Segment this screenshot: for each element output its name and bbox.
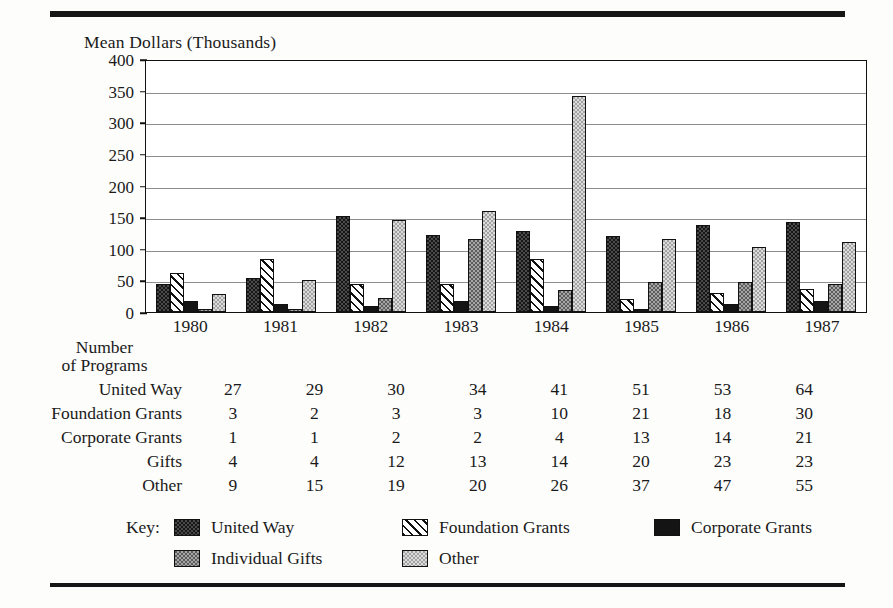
bar-group-1980: [146, 61, 236, 312]
bar-corporate-grants-1983[interactable]: [454, 301, 468, 312]
table-header-spacer-1986: [682, 336, 764, 377]
bar-corporate-grants-1986[interactable]: [724, 304, 738, 312]
bar-united-way-1984[interactable]: [516, 231, 530, 312]
table-row-label-gifts: Gifts: [27, 449, 192, 473]
table-cell-foundation-grants-1985: 21: [600, 401, 682, 425]
table-cell-gifts-1980: 4: [192, 449, 274, 473]
table-header-spacer-1987: [763, 336, 845, 377]
table-row-label-corporate-grants: Corporate Grants: [27, 425, 192, 449]
bar-foundation-grants-1981[interactable]: [260, 259, 274, 312]
table-header-line1: Number: [27, 338, 182, 357]
table-cell-other-1986: 47: [682, 473, 764, 497]
bar-corporate-grants-1981[interactable]: [274, 304, 288, 312]
legend-item-foundation-grants[interactable]: Foundation Grants: [402, 517, 654, 538]
bar-foundation-grants-1984[interactable]: [530, 259, 544, 312]
table-cell-corporate-grants-1982: 2: [355, 425, 437, 449]
bar-united-way-1986[interactable]: [696, 225, 710, 312]
bar-other-1980[interactable]: [212, 294, 226, 312]
table-cell-other-1983: 20: [437, 473, 519, 497]
y-tick-label-350: 350: [109, 83, 135, 100]
table-header-line2: of Programs: [27, 356, 182, 375]
bar-individual-gifts-1983[interactable]: [468, 239, 482, 312]
table-cell-united-way-1980: 27: [192, 377, 274, 401]
bar-corporate-grants-1987[interactable]: [814, 301, 828, 312]
bar-foundation-grants-1986[interactable]: [710, 293, 724, 312]
table-row: Other915192026374755: [27, 473, 845, 497]
legend-item-other[interactable]: Other: [402, 548, 654, 569]
table-cell-other-1980: 9: [192, 473, 274, 497]
legend-item-corporate-grants[interactable]: Corporate Grants: [654, 517, 884, 538]
legend-item-individual-gifts[interactable]: Individual Gifts: [174, 548, 402, 569]
table-cell-corporate-grants-1984: 4: [519, 425, 601, 449]
bar-corporate-grants-1984[interactable]: [544, 306, 558, 312]
bar-individual-gifts-1986[interactable]: [738, 282, 752, 312]
legend-item-united-way[interactable]: United Way: [174, 517, 402, 538]
x-axis-label-1981: 1981: [235, 316, 325, 337]
table-header-spacer-1982: [355, 336, 437, 377]
bar-corporate-grants-1980[interactable]: [184, 301, 198, 312]
y-tick-label-50: 50: [117, 273, 134, 290]
bar-other-1984[interactable]: [572, 96, 586, 312]
bar-corporate-grants-1982[interactable]: [364, 306, 378, 312]
table-cell-foundation-grants-1986: 18: [682, 401, 764, 425]
table-header-spacer-1983: [437, 336, 519, 377]
table-cell-foundation-grants-1983: 3: [437, 401, 519, 425]
x-axis-label-1985: 1985: [596, 316, 686, 337]
table-row: Foundation Grants323310211830: [27, 401, 845, 425]
table-header-spacer-1980: [192, 336, 274, 377]
y-tick-label-250: 250: [109, 146, 135, 163]
bar-corporate-grants-1985[interactable]: [634, 309, 648, 312]
bar-individual-gifts-1982[interactable]: [378, 298, 392, 312]
bottom-rule: [50, 583, 845, 587]
bar-group-1987: [776, 61, 866, 312]
bar-other-1983[interactable]: [482, 211, 496, 312]
table-row: Corporate Grants11224131421: [27, 425, 845, 449]
x-axis-label-1980: 1980: [145, 316, 235, 337]
y-tick-label-100: 100: [109, 241, 135, 258]
bar-foundation-grants-1982[interactable]: [350, 284, 364, 312]
table-cell-foundation-grants-1981: 2: [274, 401, 356, 425]
bar-united-way-1983[interactable]: [426, 235, 440, 312]
bar-foundation-grants-1983[interactable]: [440, 284, 454, 312]
chart-page: Mean Dollars (Thousands) 050100150200250…: [0, 0, 893, 608]
table-cell-corporate-grants-1986: 14: [682, 425, 764, 449]
top-rule: [50, 11, 845, 17]
y-tick-label-300: 300: [109, 115, 135, 132]
bar-other-1982[interactable]: [392, 220, 406, 312]
data-table-section: Numberof Programs United Way272930344151…: [0, 336, 893, 497]
bar-group-1986: [686, 61, 776, 312]
table-cell-other-1982: 19: [355, 473, 437, 497]
table-cell-united-way-1983: 34: [437, 377, 519, 401]
table-row-label-other: Other: [27, 473, 192, 497]
plot-area: [145, 60, 867, 313]
bar-other-1986[interactable]: [752, 247, 766, 312]
bar-united-way-1980[interactable]: [156, 284, 170, 312]
bar-individual-gifts-1987[interactable]: [828, 284, 842, 312]
table-cell-gifts-1982: 12: [355, 449, 437, 473]
bar-group-1983: [416, 61, 506, 312]
table-cell-united-way-1981: 29: [274, 377, 356, 401]
bar-other-1981[interactable]: [302, 280, 316, 312]
bar-united-way-1982[interactable]: [336, 216, 350, 312]
bar-group-1984: [506, 61, 596, 312]
bar-foundation-grants-1985[interactable]: [620, 299, 634, 312]
bar-other-1987[interactable]: [842, 242, 856, 312]
bar-other-1985[interactable]: [662, 239, 676, 312]
data-table: Numberof Programs United Way272930344151…: [27, 336, 845, 497]
bar-group-1981: [236, 61, 326, 312]
bar-foundation-grants-1987[interactable]: [800, 289, 814, 312]
bar-individual-gifts-1985[interactable]: [648, 282, 662, 312]
bar-united-way-1981[interactable]: [246, 278, 260, 312]
bar-united-way-1985[interactable]: [606, 236, 620, 312]
table-row: Gifts44121314202323: [27, 449, 845, 473]
united-way-swatch-icon: [174, 519, 200, 536]
table-cell-corporate-grants-1983: 2: [437, 425, 519, 449]
bar-individual-gifts-1984[interactable]: [558, 290, 572, 312]
table-cell-united-way-1986: 53: [682, 377, 764, 401]
bar-individual-gifts-1980[interactable]: [198, 309, 212, 312]
bar-foundation-grants-1980[interactable]: [170, 273, 184, 312]
bar-united-way-1987[interactable]: [786, 222, 800, 312]
bar-group-1982: [326, 61, 416, 312]
x-axis-label-1984: 1984: [506, 316, 596, 337]
bar-individual-gifts-1981[interactable]: [288, 309, 302, 312]
